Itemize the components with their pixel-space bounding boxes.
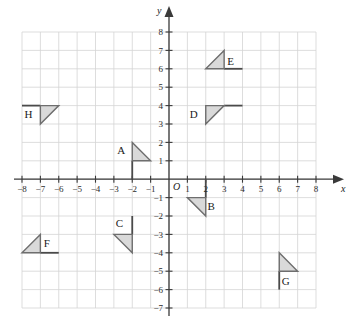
y-tick-label: 5 [159, 82, 164, 92]
triangle-label-d: D [190, 108, 198, 120]
triangle-label-f: F [44, 237, 50, 249]
triangle-e [206, 50, 224, 68]
triangle-label-a: A [117, 144, 125, 156]
triangle-label-g: G [282, 275, 290, 287]
triangle-d [206, 106, 224, 124]
triangle-c [114, 234, 132, 252]
x-tick-label: −2 [127, 184, 137, 194]
x-tick-label: 2 [204, 184, 209, 194]
x-tick-label: 3 [222, 184, 227, 194]
triangle-g [279, 253, 297, 271]
tick-labels: −8−7−6−5−4−3−2−11234567887654321−1−2−3−4… [17, 27, 319, 313]
triangle-a [132, 142, 150, 160]
x-tick-label: 1 [185, 184, 190, 194]
triangle-h [40, 106, 58, 124]
y-axis-arrowhead [165, 6, 174, 17]
y-tick-label: 1 [159, 156, 164, 166]
y-tick-label: 4 [159, 101, 164, 111]
triangle-label-h: H [24, 108, 32, 120]
triangle-label-e: E [227, 55, 234, 67]
y-tick-label: 6 [159, 64, 164, 74]
y-tick-label: −1 [153, 193, 163, 203]
y-tick-label: −6 [153, 285, 163, 295]
x-tick-label: −4 [91, 184, 101, 194]
x-axis-label: x [340, 183, 346, 194]
x-tick-label: −3 [109, 184, 119, 194]
y-tick-label: −2 [153, 211, 163, 221]
y-axis-label: y [156, 5, 162, 16]
triangle-b [187, 198, 205, 216]
triangle-f [22, 234, 40, 252]
y-tick-label: 2 [159, 138, 164, 148]
x-tick-label: 5 [259, 184, 264, 194]
axis-names: Oxy [156, 5, 346, 194]
coordinate-plane-svg: −8−7−6−5−4−3−2−11234567887654321−1−2−3−4… [0, 0, 350, 331]
x-tick-label: −7 [36, 184, 46, 194]
x-tick-label: −5 [72, 184, 82, 194]
x-tick-label: −8 [17, 184, 27, 194]
y-tick-label: 7 [159, 46, 164, 56]
y-tick-label: 8 [159, 27, 164, 37]
x-tick-label: 6 [277, 184, 282, 194]
x-tick-label: −6 [54, 184, 64, 194]
triangle-label-c: C [116, 217, 123, 229]
triangle-label-b: B [208, 200, 215, 212]
coordinate-grid-diagram: −8−7−6−5−4−3−2−11234567887654321−1−2−3−4… [0, 0, 350, 331]
x-tick-label: 4 [240, 184, 245, 194]
x-tick-label: 7 [295, 184, 300, 194]
origin-label: O [173, 181, 180, 192]
y-tick-label: 3 [159, 119, 164, 129]
y-tick-label: −3 [153, 230, 163, 240]
y-tick-label: −7 [153, 303, 163, 313]
y-tick-label: −5 [153, 266, 163, 276]
x-tick-label: 8 [314, 184, 319, 194]
y-tick-label: −4 [153, 248, 163, 258]
